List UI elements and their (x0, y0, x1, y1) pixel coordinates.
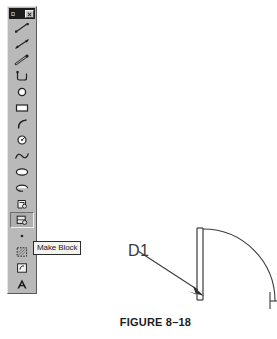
arc-icon (14, 118, 30, 130)
door-swing-arc (203, 229, 275, 301)
circle-radius-icon (14, 134, 30, 146)
figure-caption: FIGURE 8–18 (0, 316, 277, 329)
wall-jamb-tick (270, 292, 277, 309)
tool-button-polyline[interactable] (10, 52, 34, 68)
hatch-icon (14, 246, 30, 258)
tool-button-rectangle[interactable] (10, 100, 34, 116)
callout-label-d1: D1 (128, 243, 149, 259)
door-panel (197, 228, 203, 300)
tool-button-circle-filled[interactable] (10, 84, 34, 100)
door-swing-svg (118, 224, 277, 314)
door-swing-drawing (118, 224, 277, 314)
tool-button-region[interactable] (10, 260, 34, 276)
toolbar-titlebar[interactable]: D (9, 8, 35, 19)
make-block-icon (14, 214, 30, 226)
tool-button-insert-block[interactable] (10, 196, 34, 212)
polyline-icon (14, 54, 30, 66)
tool-button-construction-line[interactable] (10, 36, 34, 52)
text-icon (14, 278, 30, 290)
toolbar-title: D (10, 11, 15, 17)
polygon-icon (14, 70, 30, 82)
insert-block-icon (14, 198, 30, 210)
toolbar-tool-list (9, 19, 35, 292)
line-icon (14, 22, 30, 34)
circle-icon (14, 86, 30, 98)
tool-button-ellipse-arc[interactable] (10, 180, 34, 196)
spline-icon (14, 150, 30, 162)
point-icon (14, 230, 30, 242)
tool-button-multiline-text[interactable] (10, 276, 34, 292)
tool-button-circle-radius[interactable] (10, 132, 34, 148)
rectangle-icon (14, 102, 30, 114)
tool-button-ellipse[interactable] (10, 164, 34, 180)
tool-button-point[interactable] (10, 228, 34, 244)
tool-button-hatch[interactable] (10, 244, 34, 260)
tool-button-arc[interactable] (10, 116, 34, 132)
tooltip-make-block: Make Block (33, 241, 81, 255)
construction-line-icon (14, 38, 30, 50)
ellipse-arc-icon (14, 182, 30, 194)
region-icon (14, 262, 30, 274)
tool-button-polygon[interactable] (10, 68, 34, 84)
tool-button-spline[interactable] (10, 148, 34, 164)
close-icon[interactable] (25, 10, 34, 18)
ellipse-icon (14, 166, 30, 178)
tool-button-line[interactable] (10, 20, 34, 36)
tool-button-make-block[interactable] (10, 212, 34, 228)
